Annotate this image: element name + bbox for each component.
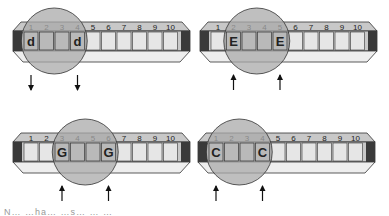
hole-7: [117, 32, 131, 50]
cropped-caption-text: N… …ha… …s… … …: [4, 207, 113, 216]
harmonica-diagram: 12345678910dd12345678910EE12345678910GG1…: [0, 0, 389, 216]
hole-8: [133, 32, 147, 50]
hole-number-5: 5: [91, 23, 96, 32]
hole-number-10: 10: [166, 23, 175, 32]
hole-number-10: 10: [166, 134, 175, 143]
note-label-C: C: [211, 145, 221, 160]
note-label-E: E: [229, 34, 238, 49]
hole-8: [133, 143, 147, 161]
hole-number-6: 6: [106, 23, 111, 32]
note-label-d: d: [74, 34, 82, 49]
hole-10: [164, 32, 178, 50]
hole-1: [211, 32, 225, 50]
hole-7: [117, 143, 131, 161]
hole-6: [289, 32, 303, 50]
hole-number-7: 7: [122, 134, 127, 143]
hole-number-8: 8: [137, 134, 142, 143]
hole-number-7: 7: [122, 23, 127, 32]
hole-8: [318, 143, 332, 161]
hole-number-9: 9: [153, 23, 158, 32]
note-label-d: d: [27, 34, 35, 49]
note-label-G: G: [57, 145, 67, 160]
hole-number-6: 6: [291, 134, 296, 143]
hole-9: [148, 143, 162, 161]
hole-number-8: 8: [324, 23, 329, 32]
harmonica-panel-d-octave: 12345678910dd: [13, 8, 190, 91]
hole-10: [164, 143, 178, 161]
harmonica-end-cap-left: [200, 31, 209, 51]
harmonica-end-cap-right: [366, 142, 375, 162]
hole-5: [271, 143, 285, 161]
hole-7: [304, 32, 318, 50]
harmonica-end-cap-right: [181, 31, 190, 51]
hole-number-5: 5: [276, 134, 281, 143]
hole-number-10: 10: [351, 134, 360, 143]
hole-1: [24, 143, 38, 161]
hole-9: [148, 32, 162, 50]
hole-number-8: 8: [137, 23, 142, 32]
hole-number-7: 7: [307, 134, 312, 143]
harmonica-end-cap-left: [13, 142, 22, 162]
hole-number-10: 10: [353, 23, 362, 32]
harmonica-end-cap-left: [13, 31, 22, 51]
hole-number-1: 1: [29, 134, 34, 143]
hole-9: [333, 143, 347, 161]
hole-number-6: 6: [293, 23, 298, 32]
hole-10: [349, 143, 363, 161]
harmonica-end-cap-right: [368, 31, 377, 51]
hole-8: [320, 32, 334, 50]
hole-number-7: 7: [309, 23, 314, 32]
hole-number-1: 1: [216, 23, 221, 32]
harmonica-end-cap-right: [181, 142, 190, 162]
note-label-G: G: [103, 145, 113, 160]
note-label-C: C: [258, 145, 268, 160]
hole-number-9: 9: [340, 23, 345, 32]
harmonica-end-cap-left: [198, 142, 207, 162]
hole-10: [351, 32, 365, 50]
note-label-E: E: [276, 34, 285, 49]
harmonica-panel-e-octave: 12345678910EE: [200, 8, 377, 90]
hole-number-2: 2: [44, 134, 49, 143]
hole-6: [287, 143, 301, 161]
harmonica-panel-g-octave: 12345678910GG: [13, 119, 190, 201]
hole-number-9: 9: [153, 134, 158, 143]
hole-6: [102, 32, 116, 50]
hole-number-9: 9: [338, 134, 343, 143]
harmonica-panel-c-octave: 12345678910CC: [198, 119, 375, 201]
hole-number-8: 8: [322, 134, 327, 143]
hole-5: [86, 32, 100, 50]
hole-2: [40, 143, 54, 161]
hole-7: [302, 143, 316, 161]
hole-9: [335, 32, 349, 50]
